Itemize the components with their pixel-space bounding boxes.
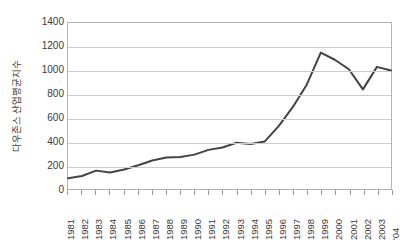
x-axis-tick-label: 1993	[236, 196, 246, 240]
x-axis-tick-label: 2001	[349, 196, 359, 240]
x-axis-tick-mark	[109, 190, 110, 195]
x-axis-tick-label: 1981	[66, 196, 76, 240]
y-axis-tick-label: 0	[58, 185, 64, 195]
gridline	[68, 71, 391, 72]
gridline	[68, 143, 391, 144]
y-axis-tick-label: 800	[47, 89, 64, 99]
x-axis-tick-label: 1987	[151, 196, 161, 240]
y-axis-tick-label: 1400	[42, 17, 64, 27]
gridline	[68, 95, 391, 96]
x-axis-tick-mark	[124, 190, 125, 195]
gridline	[68, 47, 391, 48]
x-axis-tick-label: 1999	[320, 196, 330, 240]
chart-container: 다우존스 산업평균지수 0200400600800100012001400 19…	[0, 0, 414, 244]
x-axis-tick-label: 1996	[278, 196, 288, 240]
x-axis-tick-label: 1984	[108, 196, 118, 240]
x-axis-tick-label: 1997	[292, 196, 302, 240]
y-axis-tick-label: 1200	[42, 41, 64, 51]
x-axis-tick-label: 1994	[250, 196, 260, 240]
x-axis-tick-mark	[364, 190, 365, 195]
plot-area	[67, 22, 392, 190]
x-axis-tick-label: 1998	[306, 196, 316, 240]
x-axis-tick-mark	[138, 190, 139, 195]
y-axis-tick-label: 600	[47, 113, 64, 123]
x-axis-tick-label: 1992	[221, 196, 231, 240]
x-axis-tick-mark	[222, 190, 223, 195]
y-axis-tick-label: 200	[47, 161, 64, 171]
y-axis-tick-label: 400	[47, 137, 64, 147]
x-axis-tick-mark	[152, 190, 153, 195]
x-axis-tick-label: 1983	[94, 196, 104, 240]
x-axis-tick-label: 1982	[80, 196, 90, 240]
x-axis-tick-mark	[293, 190, 294, 195]
x-axis-tick-mark	[350, 190, 351, 195]
x-axis-tick-mark	[208, 190, 209, 195]
x-axis-tick-mark	[180, 190, 181, 195]
gridline	[68, 167, 391, 168]
x-axis-tick-mark	[166, 190, 167, 195]
x-axis-tick-label: 1985	[123, 196, 133, 240]
x-axis-tick-mark	[279, 190, 280, 195]
x-axis-tick-label: 1990	[193, 196, 203, 240]
x-axis-tick-mark	[392, 190, 393, 195]
x-axis-tick-labels: 1981198219831984198519861987198819891990…	[67, 196, 392, 242]
x-axis-tick-label: 2002	[363, 196, 373, 240]
y-axis-title: 다우존스 산업평균지수	[8, 22, 24, 190]
x-axis-tick-label: 2003	[377, 196, 387, 240]
x-axis-tick-label: 1988	[165, 196, 175, 240]
x-axis-tick-mark	[237, 190, 238, 195]
x-axis-tick-mark	[81, 190, 82, 195]
x-axis-tick-label: 1989	[179, 196, 189, 240]
x-axis-tick-mark	[307, 190, 308, 195]
x-axis-tick-mark	[265, 190, 266, 195]
x-axis-tick-label: 1986	[137, 196, 147, 240]
x-axis-tick-mark	[335, 190, 336, 195]
x-axis-tick-mark	[321, 190, 322, 195]
y-axis-tick-labels: 0200400600800100012001400	[26, 0, 64, 244]
x-axis-tick-mark	[378, 190, 379, 195]
x-axis-tick-mark	[95, 190, 96, 195]
x-axis-tick-label: 2000	[334, 196, 344, 240]
x-axis-tick-mark	[194, 190, 195, 195]
x-axis-tick-label: 1991	[207, 196, 217, 240]
x-axis-tick-label: 1995	[264, 196, 274, 240]
gridline	[68, 119, 391, 120]
x-axis-tick-mark	[67, 190, 68, 195]
x-axis-tick-mark	[251, 190, 252, 195]
y-axis-tick-label: 1000	[42, 65, 64, 75]
x-axis-tick-label: '04	[391, 196, 401, 240]
